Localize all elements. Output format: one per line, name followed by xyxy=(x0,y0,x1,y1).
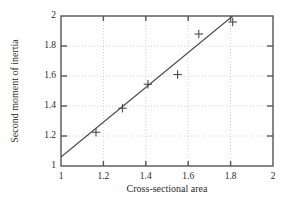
plot-frame xyxy=(61,16,273,166)
y-tick-label: 1.4 xyxy=(44,101,56,111)
x-tick-label: 1.8 xyxy=(225,172,237,182)
x-tick-label: 1 xyxy=(59,172,64,182)
y-tick-label: 1 xyxy=(51,161,56,171)
x-tick-label: 1.2 xyxy=(97,172,109,182)
y-tick-label: 2 xyxy=(51,11,56,21)
y-tick-label: 1.6 xyxy=(44,71,56,81)
x-tick-label: 1.4 xyxy=(140,172,152,182)
data-point-marker xyxy=(118,104,126,112)
x-tick-label: 2 xyxy=(271,172,276,182)
chart-figure: 11.21.41.61.82 11.21.41.61.82 Cross-sect… xyxy=(0,0,288,209)
grid-lines xyxy=(61,16,273,166)
y-tick-label: 1.2 xyxy=(44,131,56,141)
axis-ticks xyxy=(61,16,273,166)
data-point-marker xyxy=(195,30,203,38)
data-point-marker xyxy=(144,80,152,88)
trend-line xyxy=(61,16,233,157)
y-tick-label: 1.8 xyxy=(44,41,56,51)
fit-line xyxy=(61,16,233,157)
y-axis-title: Second moment of inertia xyxy=(9,39,20,143)
x-axis-title: Cross-sectional area xyxy=(127,183,208,194)
x-tick-label: 1.6 xyxy=(182,172,194,182)
data-point-markers xyxy=(92,18,237,137)
data-point-marker xyxy=(173,70,181,78)
data-point-marker xyxy=(92,128,100,136)
